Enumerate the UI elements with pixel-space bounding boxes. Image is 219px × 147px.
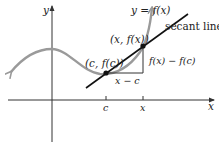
- point-c-label: (c, f(c)): [85, 57, 124, 69]
- x-axis-label: x: [208, 100, 214, 112]
- y-axis-label: y: [42, 4, 50, 16]
- tick-c-label: c: [103, 102, 109, 113]
- run-label: x − c: [115, 75, 140, 86]
- function-label: y = f(x): [130, 4, 170, 16]
- rise-label: f(x) − f(c): [148, 55, 196, 66]
- point-x-label: (x, f(x)): [110, 33, 149, 45]
- secant-label: secant line: [165, 20, 219, 32]
- secant-line-diagram: y x y = f(x) secant line (x, f(x)) (c, f…: [0, 0, 219, 147]
- point-c: [103, 70, 108, 75]
- tick-x-label: x: [140, 102, 146, 113]
